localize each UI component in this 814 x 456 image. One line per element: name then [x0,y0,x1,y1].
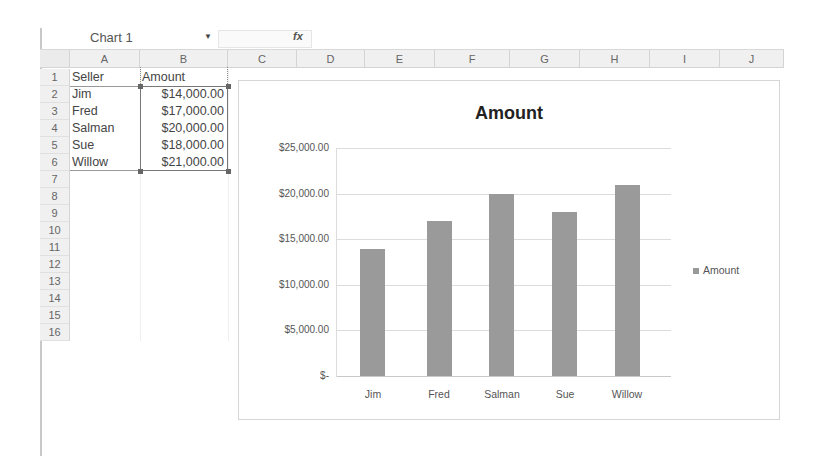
x-tick-label: Willow [597,388,657,400]
row-header-1[interactable]: 1 [40,69,70,86]
x-tick-label: Fred [409,388,469,400]
bar-salman[interactable] [489,194,514,376]
y-tick-label: $25,000.00 [239,142,329,153]
chart-area[interactable]: Amount $25,000.00 $20,000.00 $15,000.00 … [238,80,780,420]
fx-icon[interactable]: fx [293,30,303,42]
y-tick-label: $- [239,370,329,381]
category-range-highlight [70,86,140,171]
cell-a1[interactable]: Seller [70,69,140,86]
series-name-range-highlight [140,67,228,86]
y-tick-label: $10,000.00 [239,279,329,290]
gridline [228,69,229,341]
column-header-f[interactable]: F [435,50,510,68]
gridline-25000 [336,148,671,149]
y-tick-label: $5,000.00 [239,324,329,335]
row-header-11[interactable]: 11 [40,239,70,256]
column-header-b[interactable]: B [140,50,228,68]
range-resize-handle[interactable] [138,84,143,89]
column-header-c[interactable]: C [228,50,297,68]
row-header-4[interactable]: 4 [40,120,70,137]
row-header-2[interactable]: 2 [40,86,70,103]
column-header-a[interactable]: A [70,50,140,68]
chart-legend[interactable]: Amount [693,264,739,276]
x-tick-label: Jim [343,388,403,400]
legend-label: Amount [703,264,739,276]
name-box-value: Chart 1 [90,30,133,45]
select-all-corner[interactable] [40,50,70,68]
row-header-6[interactable]: 6 [40,154,70,171]
row-header-13[interactable]: 13 [40,273,70,290]
column-header-j[interactable]: J [720,50,784,68]
row-header-9[interactable]: 9 [40,205,70,222]
row-header-3[interactable]: 3 [40,103,70,120]
name-box[interactable]: Chart 1 ▼ [52,30,212,48]
row-header-15[interactable]: 15 [40,307,70,324]
row-header-16[interactable]: 16 [40,324,70,341]
column-header-h[interactable]: H [580,50,650,68]
y-axis-line [336,148,337,377]
row-header-14[interactable]: 14 [40,290,70,307]
column-header-g[interactable]: G [510,50,580,68]
bar-fred[interactable] [427,221,452,376]
row-header-7[interactable]: 7 [40,171,70,188]
y-tick-label: $15,000.00 [239,233,329,244]
bar-sue[interactable] [552,212,577,376]
x-axis-line [336,376,671,377]
column-header-d[interactable]: D [297,50,365,68]
x-tick-label: Sue [535,388,595,400]
column-header-i[interactable]: I [650,50,720,68]
column-header-e[interactable]: E [365,50,435,68]
range-resize-handle[interactable] [226,169,231,174]
bar-willow[interactable] [615,185,640,376]
row-header-10[interactable]: 10 [40,222,70,239]
row-header-5[interactable]: 5 [40,137,70,154]
y-tick-label: $20,000.00 [239,188,329,199]
row-header-12[interactable]: 12 [40,256,70,273]
row-header-8[interactable]: 8 [40,188,70,205]
range-resize-handle[interactable] [138,169,143,174]
bar-jim[interactable] [360,249,385,376]
chart-title[interactable]: Amount [239,103,779,124]
range-resize-handle[interactable] [226,84,231,89]
x-tick-label: Salman [472,388,532,400]
legend-swatch-icon [693,268,699,274]
values-range-highlight [140,86,228,171]
chevron-down-icon[interactable]: ▼ [204,32,212,41]
